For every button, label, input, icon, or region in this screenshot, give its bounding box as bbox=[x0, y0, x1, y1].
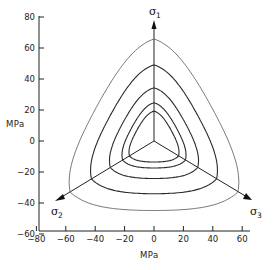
principal-axes bbox=[55, 20, 252, 201]
sigma2-label: σ 2 bbox=[51, 205, 63, 220]
y-axis-label: MPa bbox=[6, 119, 25, 129]
y-tick-label: 20 bbox=[24, 105, 35, 115]
x-tick-label: 0 bbox=[151, 234, 156, 244]
y-tick-label: 40 bbox=[24, 74, 35, 84]
x-axis: −80−60−40−200204060 bbox=[27, 226, 250, 244]
yield-surface-chart: 806040200−20−40−60 −80−60−40−200204060 M… bbox=[0, 0, 275, 270]
sigma2-arrow-icon bbox=[55, 194, 65, 201]
sigma3-arrow-icon bbox=[243, 193, 252, 200]
sigma1-arrow-icon bbox=[152, 20, 157, 29]
sigma3-label: σ 3 bbox=[250, 205, 262, 220]
x-tick-label: −60 bbox=[57, 234, 75, 244]
y-tick-label: −20 bbox=[17, 167, 35, 177]
y-tick-label: 0 bbox=[30, 136, 35, 146]
x-tick-label: −40 bbox=[86, 234, 104, 244]
svg-text:3: 3 bbox=[257, 211, 262, 220]
svg-text:2: 2 bbox=[58, 211, 63, 220]
x-tick-label: −80 bbox=[27, 234, 45, 244]
y-tick-label: 80 bbox=[24, 12, 35, 22]
x-tick-label: 20 bbox=[178, 234, 189, 244]
x-tick-label: 40 bbox=[207, 234, 218, 244]
svg-text:1: 1 bbox=[156, 11, 161, 20]
x-axis-label: MPa bbox=[140, 250, 159, 260]
y-tick-label: 60 bbox=[24, 43, 35, 53]
y-tick-label: −40 bbox=[17, 198, 35, 208]
x-tick-label: 60 bbox=[237, 234, 248, 244]
sigma1-label: σ 1 bbox=[149, 5, 161, 20]
x-tick-label: −20 bbox=[116, 234, 134, 244]
